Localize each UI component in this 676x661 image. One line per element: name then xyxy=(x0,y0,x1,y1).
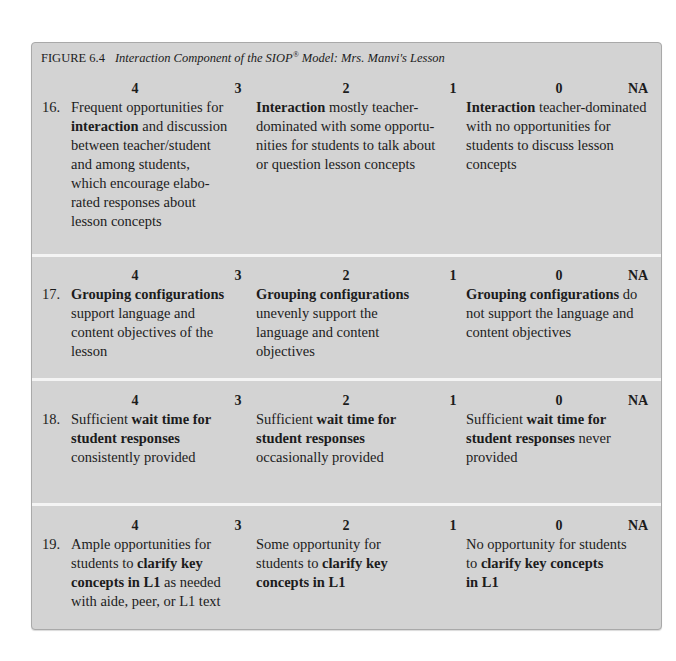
key-term: Grouping configurations xyxy=(466,286,619,302)
descriptor-mid-line: unevenly support the xyxy=(256,304,409,323)
score-3-label: 3 xyxy=(235,393,242,409)
descriptor-high-line: with aide, peer, or L1 text xyxy=(71,592,221,611)
descriptor-mid-line: nities for students to talk about xyxy=(256,136,435,155)
descriptor-high-line: rated responses about xyxy=(71,193,227,212)
score-0-label: 0 xyxy=(556,518,563,534)
key-term: concepts in L1 xyxy=(71,574,160,590)
score-3-label: 3 xyxy=(235,268,242,284)
key-term: clarify key xyxy=(322,555,388,571)
plain-text: and discussion xyxy=(139,118,228,134)
key-term: clarify key concepts xyxy=(481,555,603,571)
descriptor-high-line: between teacher/student xyxy=(71,136,227,155)
descriptor-high-line: which encourage elabo- xyxy=(71,174,227,193)
descriptor-high-line: and among students, xyxy=(71,155,227,174)
descriptor-high-line: Sufficient wait time for xyxy=(71,410,211,429)
plain-text: never xyxy=(575,430,611,446)
key-term: student responses xyxy=(256,430,365,446)
score-3-label: 3 xyxy=(235,518,242,534)
descriptor-mid-line: Sufficient wait time for xyxy=(256,410,396,429)
score-1-label: 1 xyxy=(450,518,457,534)
plain-text: Sufficient xyxy=(71,411,132,427)
plain-text: Frequent opportunities for xyxy=(71,99,223,115)
item-number: 18. xyxy=(42,410,60,429)
descriptor-mid: Some opportunity forstudents to clarify … xyxy=(256,535,388,592)
score-0-label: 0 xyxy=(556,81,563,97)
descriptor-high-line: students to clarify key xyxy=(71,554,221,573)
descriptor-mid: Grouping configurationsunevenly support … xyxy=(256,285,409,361)
score-3-label: 3 xyxy=(235,81,242,97)
key-term: concepts in L1 xyxy=(256,574,345,590)
descriptor-low-line: with no opportunities for xyxy=(466,117,647,136)
key-term: interaction xyxy=(71,118,139,134)
descriptor-low-line: Interaction teacher-dominated xyxy=(466,98,647,117)
descriptor-mid: Sufficient wait time forstudent response… xyxy=(256,410,396,467)
score-4-label: 4 xyxy=(132,268,139,284)
score-0-label: 0 xyxy=(556,393,563,409)
descriptor-high: Sufficient wait time forstudent response… xyxy=(71,410,211,467)
descriptor-mid-line: Interaction mostly teacher- xyxy=(256,98,435,117)
descriptor-low: Grouping configurations donot support th… xyxy=(466,285,637,342)
figure-label: FIGURE 6.4 xyxy=(41,51,105,65)
score-na-label: NA xyxy=(628,393,648,409)
score-2-label: 2 xyxy=(343,393,350,409)
key-term: Interaction xyxy=(256,99,325,115)
descriptor-low-line: student responses never xyxy=(466,429,611,448)
descriptor-low: Sufficient wait time forstudent response… xyxy=(466,410,611,467)
descriptor-low-line: not support the language and xyxy=(466,304,637,323)
item-number: 19. xyxy=(42,535,60,554)
plain-text: students to xyxy=(256,555,322,571)
score-1-label: 1 xyxy=(450,393,457,409)
descriptor-high: Grouping configurationssupport language … xyxy=(71,285,224,361)
key-term: student responses xyxy=(466,430,575,446)
descriptor-high-line: support language and xyxy=(71,304,224,323)
plain-text: do xyxy=(619,286,637,302)
plain-text: Sufficient xyxy=(466,411,527,427)
descriptor-high-line: lesson concepts xyxy=(71,212,227,231)
descriptor-high: Ample opportunities forstudents to clari… xyxy=(71,535,221,611)
score-0-label: 0 xyxy=(556,268,563,284)
row-separator xyxy=(32,378,661,381)
score-4-label: 4 xyxy=(132,518,139,534)
row-separator xyxy=(32,254,661,257)
descriptor-low: No opportunity for studentsto clarify ke… xyxy=(466,535,627,592)
plain-text: as needed xyxy=(160,574,220,590)
item-number: 17. xyxy=(42,285,60,304)
descriptor-mid-line: Some opportunity for xyxy=(256,535,388,554)
descriptor-mid: Interaction mostly teacher-dominated wit… xyxy=(256,98,435,174)
descriptor-low: Interaction teacher-dominatedwith no opp… xyxy=(466,98,647,174)
figure-title-main: Interaction Component of the SIOP xyxy=(115,51,293,65)
key-term: Interaction xyxy=(466,99,535,115)
score-na-label: NA xyxy=(628,81,648,97)
score-4-label: 4 xyxy=(132,393,139,409)
descriptor-low-line: Sufficient wait time for xyxy=(466,410,611,429)
figure-title: Interaction Component of the SIOP® Model… xyxy=(115,51,445,65)
key-term: Grouping configurations xyxy=(71,286,224,302)
descriptor-mid-line: language and content xyxy=(256,323,409,342)
plain-text: mostly teacher- xyxy=(325,99,418,115)
key-term: clarify key xyxy=(137,555,203,571)
score-1-label: 1 xyxy=(450,81,457,97)
row-separator xyxy=(32,503,661,506)
descriptor-low-line: No opportunity for students xyxy=(466,535,627,554)
score-2-label: 2 xyxy=(343,268,350,284)
descriptor-mid-line: concepts in L1 xyxy=(256,573,388,592)
score-na-label: NA xyxy=(628,268,648,284)
descriptor-high-line: Ample opportunities for xyxy=(71,535,221,554)
descriptor-high-line: consistently provided xyxy=(71,448,211,467)
descriptor-low-line: Grouping configurations do xyxy=(466,285,637,304)
descriptor-high-line: Frequent opportunities for xyxy=(71,98,227,117)
score-na-label: NA xyxy=(628,518,648,534)
key-term: wait time for xyxy=(527,411,607,427)
descriptor-mid-line: students to clarify key xyxy=(256,554,388,573)
plain-text: to xyxy=(466,555,481,571)
descriptor-mid-line: or question lesson concepts xyxy=(256,155,435,174)
score-1-label: 1 xyxy=(450,268,457,284)
descriptor-low-line: to clarify key concepts xyxy=(466,554,627,573)
descriptor-mid-line: occasionally provided xyxy=(256,448,396,467)
descriptor-low-line: students to discuss lesson xyxy=(466,136,647,155)
key-term: wait time for xyxy=(317,411,397,427)
descriptor-low-line: in L1 xyxy=(466,573,627,592)
score-2-label: 2 xyxy=(343,81,350,97)
descriptor-high: Frequent opportunities forinteraction an… xyxy=(71,98,227,231)
descriptor-mid-line: objectives xyxy=(256,342,409,361)
